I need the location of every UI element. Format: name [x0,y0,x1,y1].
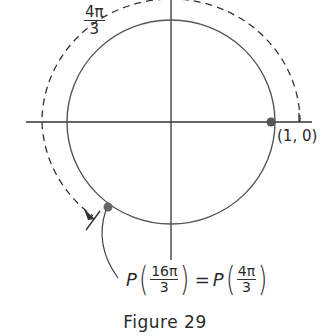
point-4pi-over-3 [104,203,113,212]
figure-caption: Figure 29 [0,312,330,332]
lhs-close-paren: ) [180,262,189,296]
rhs-denominator: 3 [242,280,251,295]
lhs-numerator: 16π [150,264,178,280]
arrowhead-icon [84,209,95,220]
equation-label: P ( 16π 3 ) = P ( 4π 3 ) [126,262,269,296]
equals-sign: = [195,269,210,290]
arc-label-numerator: 4π [84,4,105,21]
arc-label-denominator: 3 [90,21,100,37]
point-1-0 [267,118,276,127]
rhs-fraction: 4π 3 [237,264,256,295]
rhs-open-paren: ( [226,262,235,296]
rhs-function: P [213,269,224,290]
rhs-numerator: 4π [237,264,256,280]
lhs-function: P [126,269,137,290]
leader-line [102,210,118,278]
lhs-denominator: 3 [160,280,169,295]
lhs-open-paren: ( [139,262,148,296]
arc-label-fraction: 4π 3 [84,4,105,37]
rhs-close-paren: ) [258,262,267,296]
lhs-fraction: 16π 3 [150,264,178,295]
point-1-0-label: (1, 0) [277,127,317,145]
